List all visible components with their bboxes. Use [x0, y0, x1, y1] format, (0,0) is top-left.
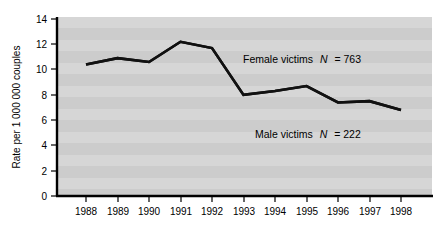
svg-text:Male victims N: Male victims N = 222	[255, 128, 361, 140]
annotation-male: Male victims N = 222	[255, 128, 361, 140]
x-tick-label: 1994	[264, 206, 287, 217]
annotation-male-italic: N	[320, 128, 328, 140]
y-tick-label: 12	[36, 39, 48, 50]
y-axis-title: Rate per 1 000 000 couples	[11, 46, 22, 169]
annotation-female-italic: N	[320, 53, 328, 65]
svg-text:Female victims N: Female victims N = 763	[243, 53, 361, 65]
x-tick-label: 1998	[390, 206, 413, 217]
annotation-male-label: Male victims	[255, 128, 313, 140]
y-tick-label: 8	[41, 90, 47, 101]
plot-area	[58, 17, 432, 196]
y-tick-label: 10	[36, 64, 48, 75]
x-tick-labels: 1988 1989 1990 1991 1992 1993 1994 1995 …	[75, 206, 413, 217]
x-tick-label: 1993	[233, 206, 256, 217]
y-tick-label: 2	[41, 166, 47, 177]
x-tick-label: 1991	[170, 206, 193, 217]
line-chart: 14 12 10 8 6 4 2 0 Rate per 1 000 000 co…	[0, 0, 448, 229]
chart-svg: 14 12 10 8 6 4 2 0 Rate per 1 000 000 co…	[0, 0, 448, 229]
x-tick-label: 1997	[359, 206, 382, 217]
annotation-female-label: Female victims	[243, 53, 313, 65]
x-tick-label: 1996	[327, 206, 350, 217]
x-tick-label: 1995	[296, 206, 319, 217]
x-tick-label: 1989	[107, 206, 130, 217]
x-tick-label: 1990	[138, 206, 161, 217]
annotation-female-tail: = 763	[334, 53, 361, 65]
y-tick-label: 6	[41, 115, 47, 126]
y-tick-label: 4	[41, 140, 47, 151]
annotation-male-tail: = 222	[334, 128, 361, 140]
x-tick-label: 1988	[75, 206, 98, 217]
annotation-female: Female victims N = 763	[243, 53, 361, 65]
y-tick-label: 14	[36, 14, 48, 25]
x-tick-label: 1992	[201, 206, 224, 217]
y-tick-label: 0	[41, 191, 47, 202]
